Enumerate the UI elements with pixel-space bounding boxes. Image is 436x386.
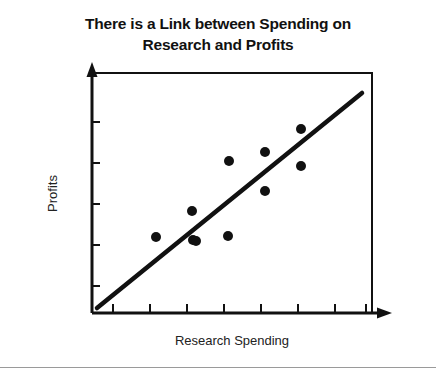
scatter-plot xyxy=(0,0,436,386)
data-point-group xyxy=(151,124,306,246)
data-point xyxy=(191,236,201,246)
data-point xyxy=(260,186,270,196)
data-point xyxy=(260,147,270,157)
data-point xyxy=(187,206,197,216)
data-point xyxy=(296,161,306,171)
data-point xyxy=(296,124,306,134)
x-axis-arrowhead xyxy=(377,308,392,319)
bottom-divider xyxy=(0,367,436,368)
chart-figure: There is a Link between Spending on Rese… xyxy=(0,0,436,386)
y-axis-arrowhead xyxy=(87,62,98,77)
trend-line xyxy=(97,93,362,308)
x-axis-label: Research Spending xyxy=(92,333,372,348)
data-point xyxy=(224,156,234,166)
y-axis-label: Profits xyxy=(45,134,60,254)
data-point xyxy=(223,231,233,241)
data-point xyxy=(151,232,161,242)
